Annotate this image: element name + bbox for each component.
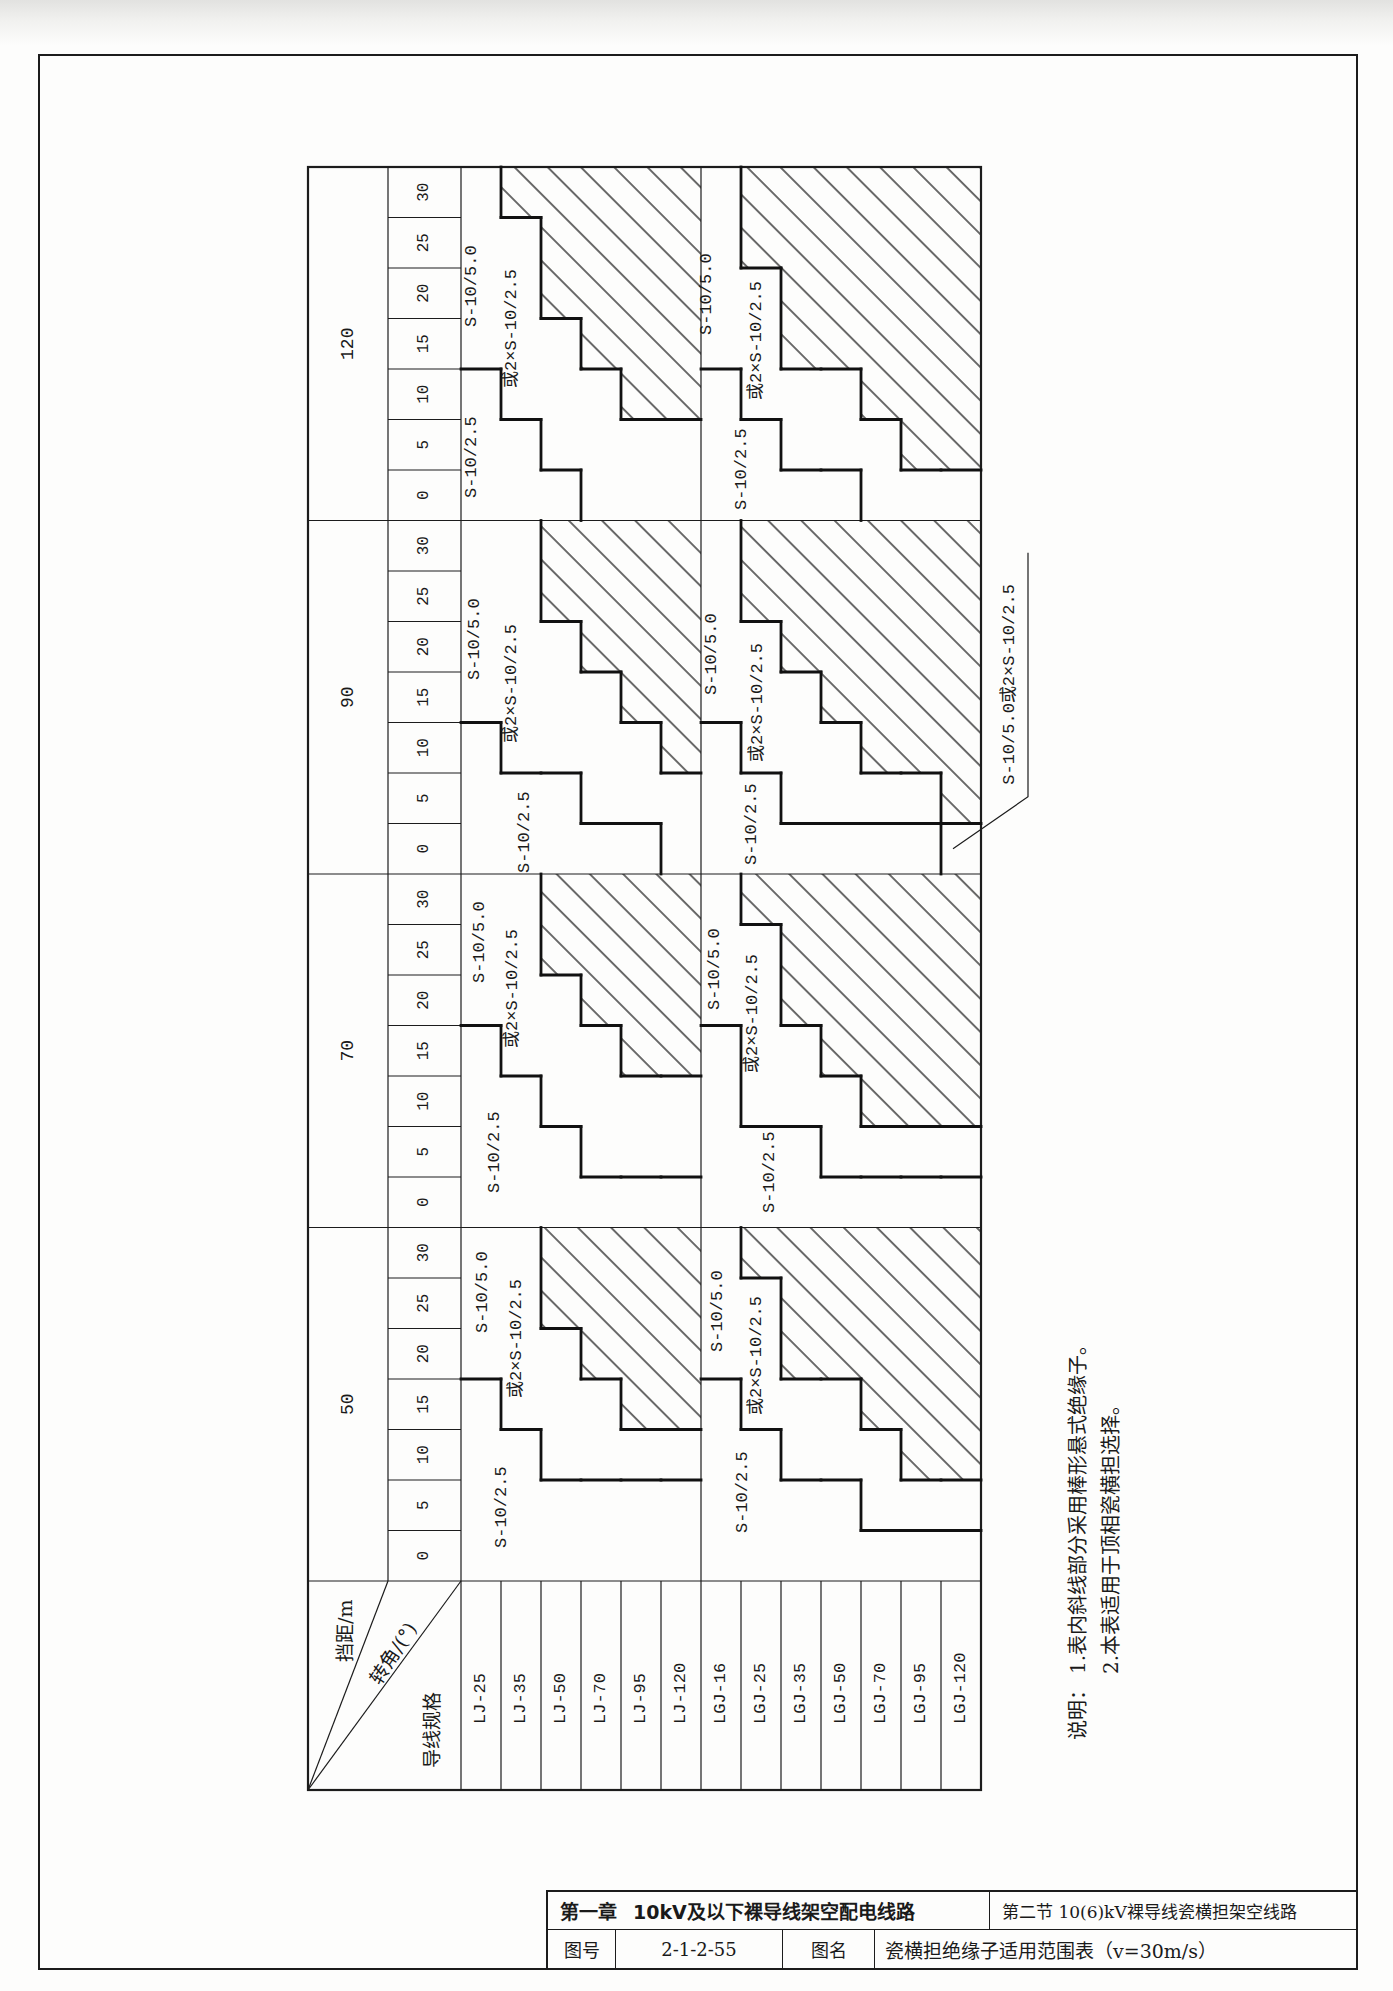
note-line-1: 说明：1.表内斜线部分采用棒形悬式绝缘子。 [1062, 1300, 1095, 1740]
insulator-range-table: 挡距/m 转角/(°) 导线规格 S-10/5.0 或2×S-10/2.5 S-… [308, 167, 981, 1790]
title-block: 第一章 10kV及以下裸导线架空配电线路 第二节 10(6)kV裸导线瓷横担架空… [546, 1890, 1358, 1970]
conductor-label: LGJ-25 [741, 1663, 781, 1724]
region-label-b2-span50-lj: 或2×S-10/2.5 [507, 1279, 527, 1398]
angle-header: 5 [388, 1480, 461, 1531]
section-title: 第二节 10(6)kV裸导线瓷横担架空线路 [1002, 1898, 1297, 1923]
angle-header: 0 [388, 470, 461, 521]
angle-header: 25 [388, 925, 461, 976]
conductor-label: LGJ-120 [941, 1653, 981, 1724]
region-label-b2-span90-lgj: 或2×S-10/2.5 [748, 643, 768, 762]
angle-header: 30 [388, 1228, 461, 1279]
region-label-a-span50-lgj: S-10/2.5 [733, 1451, 753, 1533]
angle-header: 20 [388, 268, 461, 319]
span-header-90: 90 [308, 521, 388, 875]
region-label-a-span70-lgj: S-10/2.5 [760, 1131, 780, 1213]
region-label-a-span120-lgj: S-10/2.5 [732, 428, 752, 510]
angle-header: 30 [388, 167, 461, 218]
corner-conductor-label: 导线规格 [421, 1692, 443, 1768]
region-label-b1-span120-lj: S-10/5.0 [462, 245, 482, 327]
region-label-a-span120-lj: S-10/2.5 [462, 416, 482, 498]
chapter-cell: 第一章 10kV及以下裸导线架空配电线路 [548, 1892, 990, 1930]
angle-header: 20 [388, 622, 461, 673]
conductor-label: LJ-50 [541, 1673, 581, 1724]
drawing-name-label: 图名 [783, 1930, 875, 1968]
region-label-b1-span120-lgj: S-10/5.0 [697, 253, 717, 335]
drawing-name: 瓷横担绝缘子适用范围表（v=30m/s） [875, 1930, 1356, 1968]
conductor-label: LGJ-35 [781, 1663, 821, 1724]
angle-header: 0 [388, 1177, 461, 1228]
angle-header: 20 [388, 1329, 461, 1380]
conductor-label: LGJ-95 [901, 1663, 941, 1724]
region-label-b1-span70-lgj: S-10/5.0 [705, 928, 725, 1010]
angle-header: 15 [388, 1379, 461, 1430]
conductor-label: LJ-95 [621, 1673, 661, 1724]
corner-angle-label: 转角/(°) [361, 1612, 425, 1694]
region-label-a-span70-lj: S-10/2.5 [485, 1111, 505, 1193]
conductor-label: LGJ-70 [861, 1663, 901, 1724]
conductor-label: LJ-35 [501, 1673, 541, 1724]
region-label-b1-span50-lgj: S-10/5.0 [708, 1270, 728, 1352]
drawing-number: 2-1-2-55 [616, 1930, 783, 1968]
angle-header: 5 [388, 773, 461, 824]
region-label-b1-span90-lj: S-10/5.0 [465, 598, 485, 680]
notes: 说明：1.表内斜线部分采用棒形悬式绝缘子。 2.本表适用于顶相瓷横担选择。 [1062, 1300, 1128, 1740]
angle-header: 10 [388, 723, 461, 774]
note-item-1: 1.表内斜线部分采用棒形悬式绝缘子。 [1066, 1335, 1090, 1674]
region-label-a-span90-lj: S-10/2.5 [515, 791, 535, 873]
angle-header: 5 [388, 1127, 461, 1178]
angle-header: 0 [388, 1531, 461, 1582]
region-label-b2-span120-lj: 或2×S-10/2.5 [502, 269, 522, 388]
drawing-number-label: 图号 [548, 1930, 616, 1968]
section-cell: 第二节 10(6)kV裸导线瓷横担架空线路 [990, 1892, 1356, 1930]
angle-header: 15 [388, 1026, 461, 1077]
note-item-2: 2.本表适用于顶相瓷横担选择。 [1099, 1395, 1123, 1674]
conductor-label: LGJ-16 [701, 1663, 741, 1724]
callout-label: S-10/5.0或2×S-10/2.5 [1000, 584, 1020, 785]
conductor-label: LJ-25 [461, 1673, 501, 1724]
angle-header: 0 [388, 824, 461, 875]
angle-header: 30 [388, 521, 461, 572]
region-label-b2-span70-lj: 或2×S-10/2.5 [503, 929, 523, 1048]
angle-header: 25 [388, 218, 461, 269]
region-label-b1-span70-lj: S-10/5.0 [470, 901, 490, 983]
region-label-a-span90-lgj: S-10/2.5 [742, 783, 762, 865]
corner-span-label: 挡距/m [334, 1600, 356, 1662]
region-label-a-span50-lj: S-10/2.5 [492, 1466, 512, 1548]
angle-header: 30 [388, 874, 461, 925]
angle-header: 10 [388, 1430, 461, 1481]
angle-header: 20 [388, 975, 461, 1026]
scan-shading [0, 0, 1393, 46]
angle-header: 25 [388, 1278, 461, 1329]
angle-header: 15 [388, 672, 461, 723]
span-header-70: 70 [308, 874, 388, 1228]
conductor-label: LGJ-50 [821, 1663, 861, 1724]
angle-header: 5 [388, 420, 461, 471]
note-line-2: 2.本表适用于顶相瓷横担选择。 [1095, 1300, 1128, 1740]
span-header-120: 120 [308, 167, 388, 521]
conductor-label: LJ-70 [581, 1673, 621, 1724]
angle-header: 10 [388, 369, 461, 420]
conductor-label: LJ-120 [661, 1663, 701, 1724]
chapter-number: 第一章 [560, 1897, 617, 1924]
angle-header: 15 [388, 319, 461, 370]
table-labels: 挡距/m 转角/(°) 导线规格 S-10/5.0 或2×S-10/2.5 S-… [308, 167, 1068, 1790]
region-label-b2-span90-lj: 或2×S-10/2.5 [502, 624, 522, 743]
region-label-b1-span50-lj: S-10/5.0 [473, 1251, 493, 1333]
notes-heading: 说明： [1062, 1674, 1095, 1740]
region-label-b1-span90-lgj: S-10/5.0 [702, 613, 722, 695]
angle-header: 10 [388, 1076, 461, 1127]
region-label-b2-span70-lgj: 或2×S-10/2.5 [743, 954, 763, 1073]
region-label-b2-span120-lgj: 或2×S-10/2.5 [747, 281, 767, 400]
chapter-title: 10kV及以下裸导线架空配电线路 [633, 1897, 915, 1924]
region-label-b2-span50-lgj: 或2×S-10/2.5 [747, 1296, 767, 1415]
span-header-50: 50 [308, 1228, 388, 1582]
angle-header: 25 [388, 571, 461, 622]
